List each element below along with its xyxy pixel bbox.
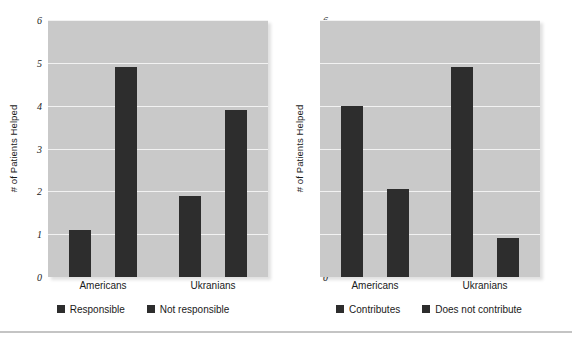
x-category-label: Ukranians — [190, 280, 235, 291]
y-axis-label: # of Patients Helped — [292, 20, 306, 277]
legend-swatch-icon — [336, 305, 344, 313]
legend-item: Responsible — [57, 304, 125, 315]
x-category-label: Americans — [79, 280, 126, 291]
y-tick-label: 3 — [37, 143, 42, 154]
bar — [451, 67, 473, 277]
y-tick-label: 5 — [37, 57, 42, 68]
y-tick-label: 2 — [37, 186, 42, 197]
chart-panel-right: # of Patients Helped 0123456 AmericansUk… — [286, 0, 572, 344]
gridline — [48, 63, 268, 64]
y-tick-label: 4 — [37, 100, 42, 111]
legend-label: Contributes — [349, 304, 400, 315]
legend-item: Contributes — [336, 304, 400, 315]
figure-container: # of Patients Helped 0123456 AmericansUk… — [0, 0, 572, 344]
y-axis-label: # of Patients Helped — [6, 20, 20, 277]
legend-item: Does not contribute — [422, 304, 522, 315]
bar — [341, 106, 363, 277]
bar — [115, 67, 137, 277]
x-axis-category-labels-right: AmericansUkranians — [320, 280, 540, 296]
legend-right: ContributesDoes not contribute — [300, 301, 558, 317]
bar — [69, 230, 91, 277]
bar — [225, 110, 247, 277]
legend-label: Does not contribute — [435, 304, 522, 315]
legend-swatch-icon — [57, 305, 65, 313]
gridline — [320, 20, 540, 21]
y-axis-tick-labels-left: 0123456 — [24, 20, 44, 277]
plot-area-left — [48, 20, 268, 277]
x-category-label: Ukranians — [462, 280, 507, 291]
y-tick-label: 1 — [37, 229, 42, 240]
plot-area-right — [320, 20, 540, 277]
x-axis-category-labels-left: AmericansUkranians — [48, 280, 268, 296]
chart-panel-left: # of Patients Helped 0123456 AmericansUk… — [0, 0, 286, 344]
gridline — [320, 63, 540, 64]
x-category-label: Americans — [351, 280, 398, 291]
bar — [387, 189, 409, 277]
legend-item: Not responsible — [147, 304, 229, 315]
legend-swatch-icon — [147, 305, 155, 313]
y-tick-label: 0 — [37, 272, 42, 283]
legend-label: Responsible — [70, 304, 125, 315]
gridline — [48, 106, 268, 107]
bottom-divider — [0, 331, 572, 333]
gridline — [48, 20, 268, 21]
y-tick-label: 6 — [37, 15, 42, 26]
bar — [179, 196, 201, 277]
legend-swatch-icon — [422, 305, 430, 313]
legend-left: ResponsibleNot responsible — [14, 301, 272, 317]
bar — [497, 238, 519, 277]
legend-label: Not responsible — [160, 304, 229, 315]
